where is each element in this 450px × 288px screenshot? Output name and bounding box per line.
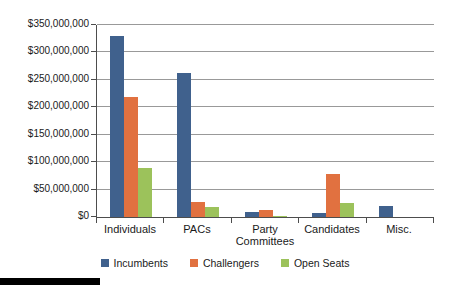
bar-incumbents-misc — [379, 206, 393, 217]
bar-open-seats-candidates — [340, 203, 354, 217]
y-axis-tick — [91, 79, 96, 80]
y-axis-tick-label: $300,000,000 — [0, 45, 89, 57]
x-axis-tick — [231, 218, 232, 223]
incumbents-swatch-icon — [101, 259, 109, 267]
bar-open-seats-party-committees — [273, 216, 287, 217]
x-axis-category-label: Misc. — [360, 223, 438, 235]
gridline — [97, 161, 434, 162]
legend-item-challengers: Challengers — [190, 257, 259, 269]
bar-incumbents-individuals — [110, 36, 124, 217]
bar-challengers-pacs — [191, 202, 205, 217]
y-axis-tick — [91, 106, 96, 107]
y-axis-tick-label: $50,000,000 — [0, 183, 89, 195]
legend-item-incumbents: Incumbents — [101, 257, 168, 269]
y-axis-tick — [91, 134, 96, 135]
x-axis-tick — [163, 218, 164, 223]
bar-open-seats-pacs — [205, 207, 219, 217]
y-axis-tick — [91, 51, 96, 52]
y-axis-tick-label: $0 — [0, 210, 89, 222]
legend-label: Open Seats — [294, 257, 349, 269]
y-axis-tick — [91, 24, 96, 25]
y-axis-tick-label: $200,000,000 — [0, 100, 89, 112]
gridline — [97, 106, 434, 107]
open-seats-swatch-icon — [281, 259, 289, 267]
legend-label: Challengers — [203, 257, 259, 269]
bar-incumbents-candidates — [312, 213, 326, 217]
legend: Incumbents Challengers Open Seats — [0, 257, 450, 269]
legend-label: Incumbents — [114, 257, 168, 269]
x-axis-tick — [96, 218, 97, 223]
challengers-swatch-icon — [190, 259, 198, 267]
page-rule-decoration — [0, 278, 100, 285]
x-axis-category-label: PACs — [158, 223, 236, 235]
bar-open-seats-individuals — [138, 168, 152, 217]
y-axis-tick — [91, 189, 96, 190]
chart: $0$50,000,000$100,000,000$150,000,000$20… — [0, 0, 450, 288]
gridline — [97, 51, 434, 52]
plot-area — [96, 25, 434, 218]
bar-challengers-individuals — [124, 97, 138, 217]
bar-challengers-party-committees — [259, 210, 273, 217]
x-axis-tick — [298, 218, 299, 223]
bar-challengers-candidates — [326, 174, 340, 217]
y-axis-tick — [91, 216, 96, 217]
y-axis-tick — [91, 161, 96, 162]
y-axis-tick-label: $100,000,000 — [0, 155, 89, 167]
gridline — [97, 134, 434, 135]
legend-item-open-seats: Open Seats — [281, 257, 349, 269]
gridline — [97, 24, 434, 25]
bar-incumbents-pacs — [177, 73, 191, 217]
y-axis-tick-label: $250,000,000 — [0, 73, 89, 85]
x-axis-tick — [366, 218, 367, 223]
gridline — [97, 79, 434, 80]
x-axis-tick — [433, 218, 434, 223]
y-axis-tick-label: $350,000,000 — [0, 18, 89, 30]
y-axis-tick-label: $150,000,000 — [0, 128, 89, 140]
bar-incumbents-party-committees — [245, 212, 259, 217]
